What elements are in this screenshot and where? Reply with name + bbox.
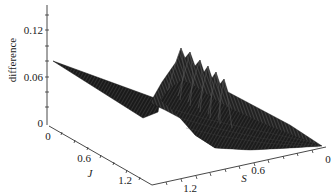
surface-mesh xyxy=(53,48,322,150)
z-axis: 0.12 0.06 0 difference xyxy=(6,5,49,129)
s-tick-0: 0 xyxy=(325,153,331,165)
s-tick-1.2: 1.2 xyxy=(183,182,197,193)
z-axis-label: difference xyxy=(6,38,18,82)
z-tick-0: 0 xyxy=(38,117,44,129)
j-tick-0: 0 xyxy=(45,130,51,142)
j-tick-0.6: 0.6 xyxy=(77,152,91,164)
s-axis: 1.2 0.6 S 0 xyxy=(152,147,331,193)
surface-plot: 0.12 0.06 0 difference 0 0.6 J 1.2 xyxy=(0,0,335,193)
s-tick-0.6: 0.6 xyxy=(251,164,265,176)
s-axis-label: S xyxy=(241,172,247,184)
j-axis: 0 0.6 J 1.2 xyxy=(45,126,152,186)
z-tick-0.12: 0.12 xyxy=(24,24,43,36)
z-tick-0.06: 0.06 xyxy=(24,71,44,83)
j-axis-label: J xyxy=(88,167,94,179)
j-tick-1.2: 1.2 xyxy=(118,174,132,186)
